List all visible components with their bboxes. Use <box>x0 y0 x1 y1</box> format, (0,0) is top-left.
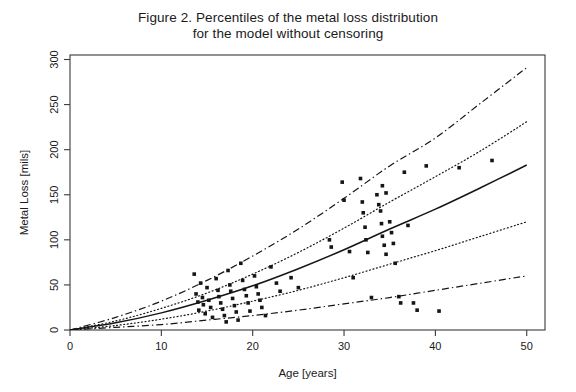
data-point <box>241 279 245 283</box>
x-tick-label: 10 <box>155 340 167 352</box>
plot-frame <box>70 55 545 330</box>
data-point <box>264 314 268 318</box>
x-tick-label: 40 <box>429 340 441 352</box>
data-point <box>194 292 198 296</box>
y-tick-label: 100 <box>48 231 60 249</box>
data-point <box>366 251 370 255</box>
data-point <box>256 292 260 296</box>
data-point <box>199 281 203 285</box>
data-point <box>192 272 196 276</box>
data-point <box>224 320 228 324</box>
y-tick-label: 150 <box>48 186 60 204</box>
data-point <box>342 198 346 202</box>
data-point <box>329 245 333 249</box>
y-tick-label: 200 <box>48 140 60 158</box>
data-point <box>399 301 403 305</box>
data-point <box>236 318 240 322</box>
data-point <box>207 298 211 302</box>
data-point <box>229 289 233 293</box>
data-point <box>297 286 301 290</box>
data-point <box>278 289 282 293</box>
data-point <box>243 288 247 292</box>
y-tick-label: 0 <box>48 327 60 333</box>
data-point <box>457 166 461 170</box>
chart-plot: 01020304050050100150200250300Age [years]… <box>0 0 576 392</box>
data-point <box>379 209 383 213</box>
data-point <box>253 274 257 278</box>
data-point <box>384 252 388 256</box>
data-point <box>216 289 220 293</box>
data-point <box>202 303 206 307</box>
y-tick-label: 300 <box>48 50 60 68</box>
data-point <box>258 298 262 302</box>
data-point <box>361 211 365 215</box>
data-point <box>424 164 428 168</box>
data-point <box>209 306 213 310</box>
data-point <box>196 300 200 304</box>
data-point <box>397 295 401 299</box>
data-point <box>228 283 232 287</box>
x-tick-label: 20 <box>247 340 259 352</box>
data-point <box>245 294 249 298</box>
percentile-curve <box>70 165 527 330</box>
data-point <box>211 316 215 320</box>
data-point <box>351 276 355 280</box>
data-point <box>328 238 332 242</box>
data-point <box>275 281 279 285</box>
data-point <box>255 285 259 289</box>
data-point <box>364 238 368 242</box>
data-point <box>363 225 367 229</box>
percentile-curve <box>70 222 527 330</box>
data-point <box>223 314 227 318</box>
data-point <box>260 306 264 310</box>
data-point <box>437 309 441 313</box>
data-point <box>370 296 374 300</box>
data-point <box>340 180 344 184</box>
data-point <box>490 159 494 163</box>
data-point <box>388 220 392 224</box>
data-point <box>348 250 352 254</box>
data-point <box>226 269 230 273</box>
plot-area <box>70 68 527 330</box>
data-point <box>380 222 384 226</box>
data-point <box>359 177 363 181</box>
data-point <box>269 265 273 269</box>
x-tick-label: 0 <box>67 340 73 352</box>
data-point <box>239 261 243 265</box>
data-point <box>392 242 396 246</box>
x-axis-title: Age [years] <box>278 367 336 379</box>
y-tick-label: 250 <box>48 95 60 113</box>
data-point <box>248 309 252 313</box>
percentile-curve <box>70 122 527 330</box>
data-point <box>201 296 205 300</box>
data-point <box>197 308 201 312</box>
data-point <box>203 312 207 316</box>
data-point <box>382 243 386 247</box>
data-point <box>217 295 221 299</box>
y-tick-label: 50 <box>48 279 60 291</box>
percentile-curve <box>70 276 527 330</box>
x-tick-label: 50 <box>521 340 533 352</box>
data-point <box>214 277 218 281</box>
data-point <box>375 193 379 197</box>
data-point <box>393 261 397 265</box>
data-point <box>219 301 223 305</box>
data-point <box>234 310 238 314</box>
data-point <box>381 234 385 238</box>
data-point <box>384 191 388 195</box>
data-point <box>221 307 225 311</box>
x-tick-label: 30 <box>338 340 350 352</box>
data-point <box>246 301 250 305</box>
data-point <box>412 301 416 305</box>
data-point <box>233 304 237 308</box>
data-point <box>231 297 235 301</box>
data-point <box>289 276 293 280</box>
data-point <box>361 200 365 204</box>
data-point <box>205 286 209 290</box>
data-point <box>381 184 385 188</box>
figure-container: Figure 2. Percentiles of the metal loss … <box>0 0 576 392</box>
data-point <box>403 170 407 174</box>
data-point <box>377 203 381 207</box>
data-point <box>415 308 419 312</box>
data-point <box>390 231 394 235</box>
